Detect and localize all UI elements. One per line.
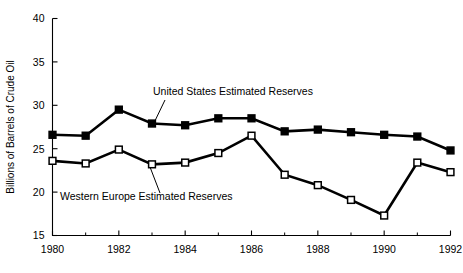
y-tick-label: 40 bbox=[33, 12, 45, 24]
crude-oil-reserves-chart: 1980198219841986198819901992 15202530354… bbox=[0, 0, 463, 273]
plot-canvas: 1980198219841986198819901992 15202530354… bbox=[0, 0, 463, 273]
data-point-marker bbox=[149, 161, 156, 168]
data-point-marker bbox=[414, 133, 421, 140]
data-point-marker bbox=[381, 131, 388, 138]
x-tick-label: 1990 bbox=[372, 243, 396, 255]
data-point-marker bbox=[49, 131, 56, 138]
annotation-label: Western Europe Estimated Reserves bbox=[60, 190, 233, 202]
data-point-marker bbox=[447, 147, 454, 154]
data-point-marker bbox=[82, 160, 89, 167]
data-point-marker bbox=[182, 159, 189, 166]
data-point-marker bbox=[49, 157, 56, 164]
series-united-states bbox=[49, 106, 454, 154]
data-point-marker bbox=[215, 115, 222, 122]
data-point-marker bbox=[314, 126, 321, 133]
data-series bbox=[49, 106, 454, 219]
we-annotation: Western Europe Estimated Reserves bbox=[60, 167, 233, 202]
data-point-marker bbox=[314, 182, 321, 189]
data-point-marker bbox=[281, 128, 288, 135]
x-axis-ticks: 1980198219841986198819901992 bbox=[41, 231, 463, 255]
data-point-marker bbox=[447, 169, 454, 176]
x-tick-label: 1992 bbox=[439, 243, 463, 255]
data-point-marker bbox=[115, 146, 122, 153]
y-tick-label: 35 bbox=[33, 56, 45, 68]
annotation-label: United States Estimated Reserves bbox=[153, 85, 313, 97]
data-point-marker bbox=[115, 106, 122, 113]
data-point-marker bbox=[248, 132, 255, 139]
y-axis-label: Billions of Barrels of Crude Oil bbox=[5, 60, 16, 193]
y-tick-label: 15 bbox=[33, 229, 45, 241]
x-tick-label: 1984 bbox=[173, 243, 197, 255]
data-point-marker bbox=[248, 115, 255, 122]
x-tick-label: 1980 bbox=[41, 243, 65, 255]
y-axis-ticks: 152025303540 bbox=[33, 12, 58, 241]
y-tick-label: 25 bbox=[33, 143, 45, 155]
data-point-marker bbox=[82, 132, 89, 139]
data-point-marker bbox=[348, 129, 355, 136]
x-tick-label: 1982 bbox=[107, 243, 131, 255]
data-point-marker bbox=[215, 150, 222, 157]
x-tick-label: 1986 bbox=[240, 243, 264, 255]
annotations: United States Estimated ReservesWestern … bbox=[60, 85, 313, 202]
series-western-europe bbox=[49, 132, 454, 219]
us-annotation: United States Estimated Reserves bbox=[152, 85, 313, 127]
y-axis-title: Billions of Barrels of Crude Oil bbox=[5, 60, 16, 193]
data-point-marker bbox=[281, 171, 288, 178]
y-tick-label: 30 bbox=[33, 99, 45, 111]
y-tick-label: 20 bbox=[33, 186, 45, 198]
data-point-marker bbox=[182, 122, 189, 129]
data-point-marker bbox=[348, 197, 355, 204]
data-point-marker bbox=[381, 212, 388, 219]
series-line bbox=[53, 136, 451, 216]
data-point-marker bbox=[414, 159, 421, 166]
x-tick-label: 1988 bbox=[306, 243, 330, 255]
